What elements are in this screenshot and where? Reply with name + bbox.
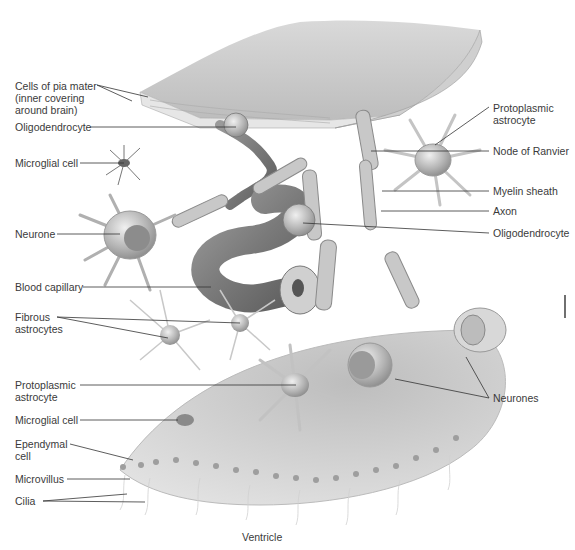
- label-myelin-sheath: Myelin sheath: [493, 185, 558, 197]
- label-oligodendrocyte-right: Oligodendrocyte: [493, 227, 569, 239]
- oligodendrocyte-mid: [283, 204, 315, 236]
- label-ependymal-cell: Ependymal cell: [15, 438, 68, 462]
- label-neurone: Neurone: [15, 228, 55, 240]
- label-neurones: Neurones: [493, 392, 539, 404]
- label-node-of-ranvier: Node of Ranvier: [493, 145, 569, 157]
- label-axon: Axon: [493, 205, 517, 217]
- label-oligodendrocyte-left: Oligodendrocyte: [15, 121, 91, 133]
- microglial-cell-bottom: [176, 414, 194, 426]
- label-cilia: Cilia: [15, 495, 35, 507]
- neuroglia-diagram: Cells of pia mater (inner covering aroun…: [0, 0, 575, 550]
- label-microvillus: Microvillus: [15, 473, 64, 485]
- label-fibrous-astrocytes: Fibrous astrocytes: [15, 311, 63, 335]
- caption-ventricle: Ventricle: [242, 531, 282, 543]
- label-protoplasmic-astrocyte-bottom: Protoplasmic astrocyte: [15, 379, 76, 403]
- label-cells-of-pia-mater: Cells of pia mater (inner covering aroun…: [15, 80, 97, 116]
- pia-mater-slab: [140, 20, 482, 128]
- label-microglial-cell-bottom: Microglial cell: [15, 414, 78, 426]
- label-protoplasmic-astrocyte-right: Protoplasmic astrocyte: [493, 102, 554, 126]
- oligodendrocyte-top: [224, 113, 248, 137]
- label-microglial-cell-top: Microglial cell: [15, 157, 78, 169]
- label-blood-capillary: Blood capillary: [15, 281, 83, 293]
